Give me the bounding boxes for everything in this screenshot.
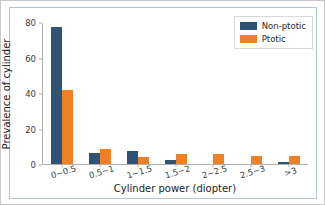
y-tick-label: 40 (25, 89, 36, 99)
bar-non-ptotic (51, 27, 62, 164)
y-tick-mark (39, 165, 42, 166)
bar-group: 1~1.5 (119, 23, 157, 164)
legend-item-non-ptotic: Non-ptotic (240, 21, 306, 31)
bar-ptotic (62, 90, 73, 164)
legend-label-non-ptotic: Non-ptotic (262, 21, 306, 31)
x-axis-title: Cylinder power (diopter) (42, 183, 308, 194)
y-tick-label: 80 (25, 18, 36, 28)
bar-group: 0~0.5 (43, 23, 81, 164)
legend-item-ptotic: Ptotic (240, 34, 306, 44)
bar-ptotic (176, 154, 187, 164)
bar-non-ptotic (127, 151, 138, 164)
y-tick-label: 60 (25, 54, 36, 64)
bar-non-ptotic (165, 160, 176, 164)
bar-group: 0.5~1 (81, 23, 119, 164)
bar-non-ptotic (89, 153, 100, 164)
y-tick-label: 20 (25, 125, 36, 135)
y-tick-mark (39, 94, 42, 95)
bar-non-ptotic (278, 162, 289, 164)
bar-ptotic (138, 157, 149, 164)
bar-ptotic (289, 156, 300, 164)
legend-swatch-icon-ptotic (240, 35, 257, 43)
y-tick-mark (39, 23, 42, 24)
y-tick-mark (39, 129, 42, 130)
chart-figure: Prevalence of cylinder Cylinder power (d… (0, 0, 325, 205)
y-tick-label: 0 (31, 160, 36, 170)
bar-group: 2~2.5 (194, 23, 232, 164)
legend-swatch-icon-non-ptotic (240, 22, 257, 30)
legend-label-ptotic: Ptotic (262, 34, 286, 44)
bar-ptotic (100, 149, 111, 164)
bar-ptotic (213, 154, 224, 164)
y-axis-title: Prevalence of cylinder (1, 39, 12, 150)
chart-legend: Non-ptotic Ptotic (234, 16, 313, 49)
bar-group: 1.5~2 (157, 23, 195, 164)
y-tick-mark (39, 58, 42, 59)
